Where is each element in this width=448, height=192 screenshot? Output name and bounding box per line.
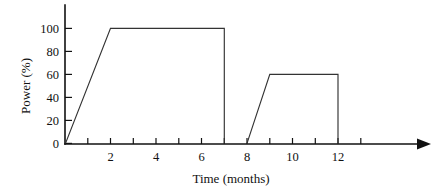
chart-screenshot: 0 20 40 60 80 100 2 4 6: [0, 0, 448, 192]
x-tick-label-12: 12: [332, 150, 345, 164]
y-tick-label-0: 0: [53, 137, 59, 151]
y-tick-label-60: 60: [47, 68, 60, 82]
series-second-operating-cycle: [247, 74, 338, 143]
series-first-operating-cycle: [66, 28, 225, 143]
x-tick-label-4: 4: [153, 150, 160, 164]
power-vs-time-chart: 0 20 40 60 80 100 2 4 6: [0, 0, 448, 192]
x-axis-arrow-icon: [417, 139, 431, 150]
x-tick-label-2: 2: [107, 150, 113, 164]
x-tick-label-8: 8: [244, 150, 250, 164]
x-tick-label-10: 10: [286, 150, 299, 164]
x-tick-label-6: 6: [198, 150, 204, 164]
y-axis-title: Power (%): [18, 58, 33, 114]
y-tick-labels: 0 20 40 60 80 100: [40, 22, 59, 151]
x-tick-labels: 2 4 6 8 10 12: [107, 150, 344, 164]
y-tick-label-40: 40: [47, 91, 60, 105]
y-tick-label-80: 80: [47, 45, 60, 59]
y-tick-label-20: 20: [47, 114, 60, 128]
x-axis-title: Time (months): [192, 171, 269, 186]
y-tick-label-100: 100: [40, 22, 59, 36]
y-tick-marks: [65, 28, 72, 143]
